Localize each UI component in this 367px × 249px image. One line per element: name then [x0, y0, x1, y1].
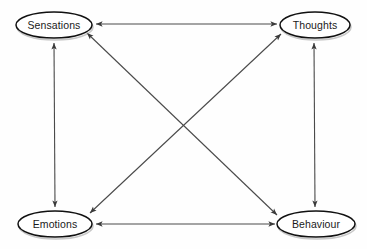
cbt-cycle-diagram: Sensations Thoughts Emotions Behaviour — [0, 0, 367, 249]
sensations-label: Sensations — [28, 19, 81, 31]
connector-thoughts-behaviour[interactable] — [314, 43, 315, 207]
node-behaviour[interactable]: Behaviour — [277, 211, 356, 239]
diagram-canvas: Sensations Thoughts Emotions Behaviour — [0, 0, 367, 249]
behaviour-label: Behaviour — [292, 218, 341, 230]
node-emotions[interactable]: Emotions — [18, 211, 93, 239]
node-sensations[interactable]: Sensations — [16, 12, 93, 40]
connector-thoughts-emotions[interactable] — [90, 34, 281, 213]
connections-group — [54, 24, 315, 224]
connector-sensations-behaviour[interactable] — [87, 33, 277, 215]
emotions-label: Emotions — [33, 218, 78, 230]
connector-sensations-emotions[interactable] — [54, 43, 55, 207]
thoughts-label: Thoughts — [293, 19, 338, 31]
node-thoughts[interactable]: Thoughts — [280, 12, 351, 40]
